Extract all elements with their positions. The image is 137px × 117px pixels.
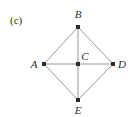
- node-label-E: E: [75, 105, 82, 116]
- figure-panel: (c) ABCDE: [0, 0, 137, 117]
- graph-edge-A-E: [44, 64, 78, 100]
- node-label-B: B: [75, 9, 82, 20]
- graph-edge-A-B: [44, 27, 78, 64]
- graph-node-B: [76, 25, 80, 29]
- graph-node-C: [76, 62, 80, 66]
- graph-node-E: [76, 98, 80, 102]
- node-label-D: D: [118, 59, 126, 70]
- graph-edge-E-D: [78, 64, 113, 100]
- node-label-C: C: [81, 51, 88, 62]
- node-label-A: A: [31, 59, 38, 70]
- graph-node-A: [42, 62, 46, 66]
- graph-node-D: [111, 62, 115, 66]
- graph-diagram: [0, 0, 137, 117]
